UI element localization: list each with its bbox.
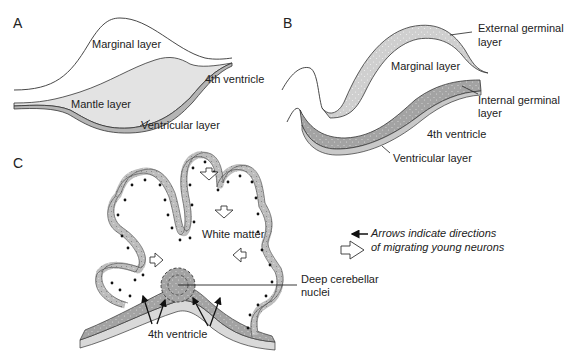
external-pointer	[450, 32, 472, 35]
label-mantle-layer: Mantle layer	[71, 98, 131, 111]
legend-line-1: Arrows indicate directions	[371, 227, 496, 240]
label-deep-cerebellar-2: nuclei	[301, 286, 330, 299]
panel-a	[14, 18, 232, 133]
panel-letter-b: B	[283, 15, 292, 31]
label-ventricular-layer-a: Ventricular layer	[141, 119, 220, 132]
label-deep-cerebellar-1: Deep cerebellar	[301, 273, 379, 286]
label-white-matter: White matter	[202, 228, 264, 241]
label-ventricular-layer-b: Ventricular layer	[393, 152, 472, 165]
label-marginal-layer-a: Marginal layer	[92, 38, 161, 51]
panel-c	[80, 153, 368, 350]
label-4th-ventricle-c: 4th ventricle	[148, 328, 207, 341]
label-marginal-layer-b: Marginal layer	[391, 60, 460, 73]
label-4th-ventricle-a: 4th ventricle	[205, 73, 264, 86]
label-external-germinal-1: External germinal	[478, 22, 564, 35]
left-contour-upper	[282, 67, 322, 108]
label-internal-germinal-1: Internal germinal	[478, 94, 560, 107]
panel-letter-a: A	[13, 15, 22, 31]
label-external-germinal-2: layer	[478, 36, 502, 49]
panel-letter-c: C	[13, 155, 23, 171]
label-internal-germinal-2: layer	[478, 107, 502, 120]
ventricular-pointer-b	[382, 146, 390, 153]
legend-hollow-arrow-icon	[341, 241, 364, 259]
legend-line-2: of migrating young neurons	[371, 241, 504, 254]
diagram-canvas	[0, 0, 569, 358]
label-4th-ventricle-b: 4th ventricle	[427, 128, 486, 141]
